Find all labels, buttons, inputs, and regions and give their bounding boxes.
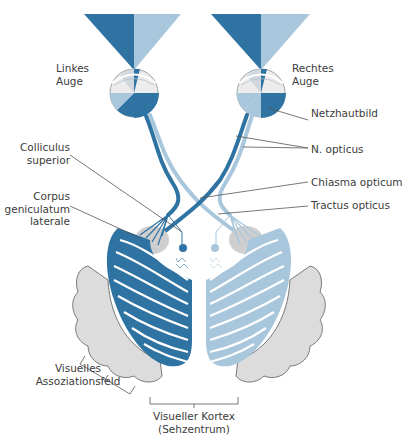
left-colliculus (179, 244, 187, 252)
label-association-line2: Assoziationsfeld (28, 375, 128, 388)
label-colliculus-line2: superior (16, 154, 70, 167)
label-left-eye: Linkes Auge (56, 62, 89, 87)
right-colliculus (211, 244, 219, 252)
label-right-eye-line2: Auge (292, 75, 334, 88)
label-visual-cortex: Visueller Kortex (Sehzentrum) (144, 410, 244, 435)
label-left-eye-line2: Auge (56, 75, 89, 88)
label-optic-nerve: N. opticus (311, 143, 364, 156)
left-visual-field (84, 14, 181, 70)
label-optic-chiasm: Chiasma opticum (311, 176, 403, 189)
label-optic-tract: Tractus opticus (311, 199, 390, 212)
label-superior-colliculus: Colliculus superior (16, 141, 70, 166)
right-eye (237, 69, 285, 117)
label-visual-cortex-line1: Visueller Kortex (144, 410, 244, 423)
label-optic-tract-text: Tractus opticus (311, 199, 390, 212)
label-lgn-line1: Corpus (4, 190, 70, 203)
label-association-line1: Visuelles (28, 362, 128, 375)
label-right-eye: Rechtes Auge (292, 62, 334, 87)
label-left-eye-line1: Linkes (56, 62, 89, 75)
label-lateral-geniculate: Corpus geniculatum laterale (4, 190, 70, 228)
label-lgn-line2: geniculatum (4, 203, 70, 216)
label-optic-nerve-text: N. opticus (311, 143, 364, 156)
left-eye (110, 69, 158, 117)
label-retinal-image: Netzhautbild (311, 107, 378, 120)
label-retinal-image-text: Netzhautbild (311, 107, 378, 120)
label-colliculus-line1: Colliculus (16, 141, 70, 154)
label-association-area: Visuelles Assoziationsfeld (28, 362, 128, 387)
label-lgn-line3: laterale (4, 215, 70, 228)
label-right-eye-line1: Rechtes (292, 62, 334, 75)
optic-nerves (146, 115, 252, 235)
label-optic-chiasm-text: Chiasma opticum (311, 176, 403, 189)
label-visual-cortex-line2: (Sehzentrum) (144, 423, 244, 435)
